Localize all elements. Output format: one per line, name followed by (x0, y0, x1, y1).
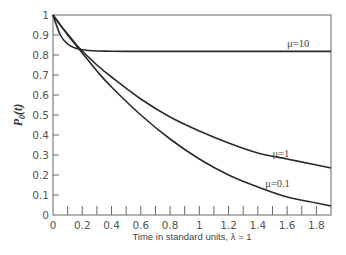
y-tick-label: 0.7 (32, 69, 49, 81)
y-tick-label: 0.6 (32, 89, 49, 101)
curve-label: μ=1 (272, 148, 289, 159)
x-tick-label: 1.4 (249, 219, 266, 231)
y-tick-label: 0.8 (32, 49, 49, 61)
chart: 00.10.20.30.40.50.60.70.80.91 00.20.40.6… (0, 0, 346, 255)
x-tick-label: 0.8 (162, 219, 179, 231)
y-axis-label-arg: (t) (11, 104, 25, 115)
y-tick-label: 0.4 (32, 129, 49, 141)
y-axis-label: P0(t) (11, 104, 27, 127)
x-tick-label: 0.2 (74, 219, 91, 231)
x-tick-label: 1.8 (308, 219, 325, 231)
y-tick-label: 0 (42, 209, 49, 221)
x-tick-label: 1 (196, 219, 203, 231)
y-tick-label: 0.2 (32, 169, 49, 181)
x-axis-label: Time in standard units, λ = 1 (132, 231, 251, 242)
curve-labels: μ=10μ=1μ=0.1 (265, 38, 309, 189)
x-axis-ticks: 00.20.40.60.811.21.41.61.8 (50, 206, 325, 231)
curve-label: μ=10 (287, 38, 309, 49)
curve-label: μ=0.1 (265, 178, 290, 189)
y-axis-ticks: 00.10.20.30.40.50.60.70.80.91 (32, 9, 59, 221)
y-tick-label: 0.9 (32, 29, 49, 41)
y-tick-label: 0.3 (32, 149, 49, 161)
x-tick-label: 1.2 (220, 219, 237, 231)
y-tick-label: 0.5 (32, 109, 49, 121)
svg-text:P0(t): P0(t) (11, 104, 27, 127)
x-tick-label: 1.6 (279, 219, 296, 231)
x-tick-label: 0 (50, 219, 57, 231)
y-tick-label: 0.1 (32, 189, 49, 201)
x-tick-label: 0.4 (103, 219, 120, 231)
x-tick-label: 0.6 (132, 219, 149, 231)
y-tick-label: 1 (42, 9, 49, 21)
